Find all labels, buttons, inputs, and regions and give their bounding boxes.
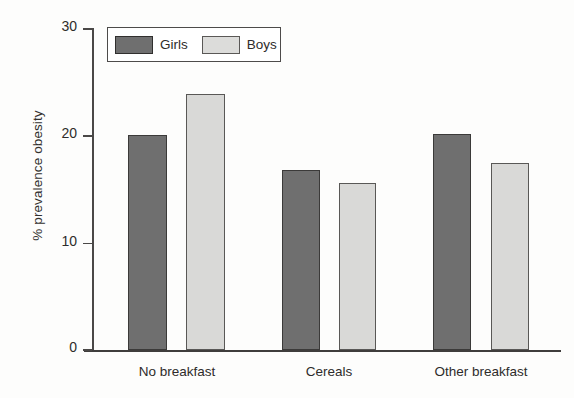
legend-swatch-boys-icon	[202, 36, 240, 54]
y-axis-line	[92, 28, 94, 350]
bar-boys-other-breakfast	[491, 163, 529, 350]
x-axis-line	[84, 350, 561, 352]
bar-boys-cereals	[339, 183, 376, 350]
legend-swatch-girls-icon	[115, 36, 153, 54]
bar-boys-no-breakfast	[186, 94, 225, 351]
chart-legend: Girls Boys	[107, 27, 281, 62]
y-tick-label-30: 30	[61, 18, 77, 34]
bar-girls-other-breakfast	[433, 134, 471, 350]
bar-girls-cereals	[282, 170, 320, 350]
y-tick-label-0: 0	[69, 339, 77, 355]
y-axis-title: % prevalence obesity	[30, 81, 45, 271]
y-tick-20: 20	[83, 135, 92, 137]
category-label-other-breakfast: Other breakfast	[434, 364, 527, 379]
plot-area: 0 10 20 30 No breakfast Cereals Other br…	[92, 28, 566, 350]
legend-entry-boys: Boys	[202, 36, 277, 54]
legend-label-girls: Girls	[160, 37, 188, 52]
y-tick-0: 0	[83, 349, 92, 351]
category-label-no-breakfast: No breakfast	[139, 364, 216, 379]
legend-entry-girls: Girls	[115, 36, 188, 54]
category-label-cereals: Cereals	[306, 364, 353, 379]
y-tick-30: 30	[83, 28, 92, 30]
legend-label-boys: Boys	[247, 37, 277, 52]
y-tick-label-20: 20	[61, 125, 77, 141]
y-tick-label-10: 10	[61, 233, 77, 249]
bar-chart: % prevalence obesity 0 10 20 30 No break…	[0, 0, 574, 398]
bar-girls-no-breakfast	[128, 135, 167, 350]
y-tick-10: 10	[83, 243, 92, 245]
